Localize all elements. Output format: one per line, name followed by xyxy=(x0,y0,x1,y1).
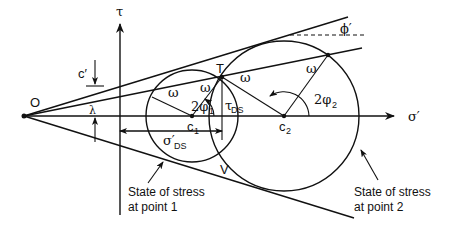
svg-text:at point 2: at point 2 xyxy=(354,200,404,214)
omega-label-2: ω xyxy=(200,80,211,95)
svg-text:DS: DS xyxy=(174,141,187,151)
svg-text:DS: DS xyxy=(231,105,244,115)
mohr-circle-diagram: τ σ′ O T V c′ λ ϕ′ ω ω ω ω 2φ 1 2φ 2 τ D… xyxy=(0,0,449,233)
t-label: T xyxy=(216,61,224,76)
lambda-label: λ xyxy=(89,104,96,117)
sigma-ds-label: σ′ DS xyxy=(163,133,187,151)
tau-ds-label: τ DS xyxy=(225,98,244,115)
svg-text:2: 2 xyxy=(286,126,291,136)
svg-text:at point 1: at point 1 xyxy=(128,200,178,214)
origin-label: O xyxy=(30,95,40,110)
annotation-point2: State of stress at point 2 xyxy=(354,185,431,214)
point-c1 xyxy=(190,114,194,118)
c2-label: c 2 xyxy=(279,119,291,136)
svg-text:1: 1 xyxy=(209,106,214,116)
omega-label-3: ω xyxy=(240,70,251,85)
point-c2 xyxy=(282,114,286,118)
point-origin xyxy=(22,114,27,119)
cohesion-label: c′ xyxy=(78,66,88,81)
svg-text:State of stress: State of stress xyxy=(128,185,205,199)
point2-pointer xyxy=(361,150,378,180)
sigma-axis-label: σ′ xyxy=(408,109,420,124)
svg-text:c: c xyxy=(279,119,286,134)
v-label: V xyxy=(220,162,229,177)
svg-text:c: c xyxy=(187,119,194,134)
svg-text:2φ: 2φ xyxy=(191,99,208,114)
svg-text:State of stress: State of stress xyxy=(354,185,431,199)
angle-arc-2 xyxy=(270,92,309,116)
failure-envelope-line xyxy=(24,17,348,116)
c1-label: c 1 xyxy=(187,119,199,136)
svg-text:1: 1 xyxy=(194,126,199,136)
angle-2phi2-label: 2φ 2 xyxy=(314,92,337,110)
omega-label-1: ω xyxy=(168,85,179,100)
point-c2-right xyxy=(326,53,330,57)
svg-text:2φ: 2φ xyxy=(314,92,331,107)
omega-label-4: ω xyxy=(306,61,317,76)
phi-label: ϕ′ xyxy=(340,21,352,36)
point1-pointer xyxy=(148,162,163,183)
tau-axis-label: τ xyxy=(116,4,123,19)
svg-text:2: 2 xyxy=(332,100,337,110)
annotation-point1: State of stress at point 1 xyxy=(128,185,205,214)
